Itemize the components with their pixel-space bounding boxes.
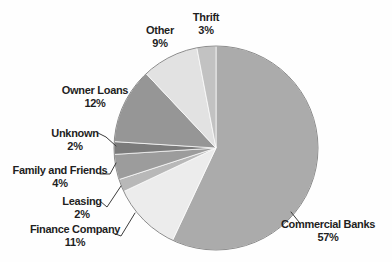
slice-label-name: Finance Company [30,223,120,236]
slice-label-pct: 9% [146,37,174,50]
slice-label-pct: 2% [51,140,98,153]
slice-label-other: Other 9% [146,24,174,50]
slice-label-pct: 11% [30,236,120,249]
slice-label-name: Leasing [62,195,101,208]
slice-label-name: Commercial Banks [281,218,375,231]
leader-line-unknown [98,133,116,146]
slice-label-leasing: Leasing 2% [62,195,101,221]
slice-label-name: Other [146,24,174,37]
slice-label-pct: 4% [13,177,108,190]
slice-label-name: Thrift [193,11,219,24]
slice-label-family-and-friends: Family and Friends 4% [13,164,108,190]
slice-label-owner-loans: Owner Loans 12% [62,84,128,110]
pie-chart: Thrift 3% Other 9% Owner Loans 12% Unkno… [0,0,392,262]
slice-label-unknown: Unknown 2% [51,127,98,153]
slice-label-pct: 57% [281,231,375,244]
slice-label-commercial-banks: Commercial Banks 57% [281,218,375,244]
slice-label-thrift: Thrift 3% [193,11,219,37]
slice-label-pct: 12% [62,97,128,110]
slice-label-name: Owner Loans [62,84,128,97]
slice-label-pct: 3% [193,24,219,37]
slice-label-pct: 2% [62,208,101,221]
slice-label-name: Unknown [51,127,98,140]
slice-label-finance-company: Finance Company 11% [30,223,120,249]
slice-label-name: Family and Friends [13,164,108,177]
